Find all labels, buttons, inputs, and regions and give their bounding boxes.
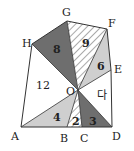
value-9: 9 bbox=[82, 37, 90, 50]
value-4: 4 bbox=[53, 111, 61, 124]
value-6: 6 bbox=[97, 60, 105, 73]
label-c: C bbox=[80, 132, 88, 145]
label-a: A bbox=[10, 130, 20, 143]
geometry-figure: G F E H O A B C D 8 9 6 4 2 3 12 다 bbox=[0, 0, 134, 151]
value-12: 12 bbox=[36, 79, 50, 92]
label-o: O bbox=[66, 85, 75, 98]
label-g: G bbox=[62, 6, 71, 19]
label-h: H bbox=[22, 37, 32, 50]
value-3: 3 bbox=[89, 115, 97, 128]
label-d: D bbox=[112, 130, 121, 143]
value-8: 8 bbox=[53, 43, 61, 56]
label-f: F bbox=[108, 17, 116, 30]
value-2: 2 bbox=[72, 115, 80, 128]
label-b: B bbox=[60, 132, 68, 145]
value-da: 다 bbox=[97, 89, 107, 102]
label-e: E bbox=[114, 63, 122, 76]
